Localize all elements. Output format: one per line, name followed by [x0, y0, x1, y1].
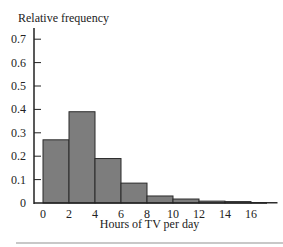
histogram-bar: [43, 140, 69, 203]
histogram: 00.10.20.30.40.50.60.70246810121416: [0, 0, 283, 247]
histogram-bar: [147, 196, 173, 203]
y-tick-label: 0.2: [11, 149, 26, 163]
y-tick-label: 0.6: [11, 56, 26, 70]
histogram-bar: [69, 112, 95, 203]
histogram-bar: [121, 183, 147, 203]
y-tick-label: 0.3: [11, 126, 26, 140]
y-tick-label: 0.5: [11, 79, 26, 93]
divider: [16, 242, 283, 244]
y-tick-label: 0.7: [11, 32, 26, 46]
y-tick-label: 0.4: [11, 102, 26, 116]
y-tick-label: 0.1: [11, 173, 26, 187]
x-axis-title: Hours of TV per day: [0, 217, 283, 232]
y-tick-label: 0: [20, 196, 26, 210]
histogram-bar: [95, 159, 121, 203]
